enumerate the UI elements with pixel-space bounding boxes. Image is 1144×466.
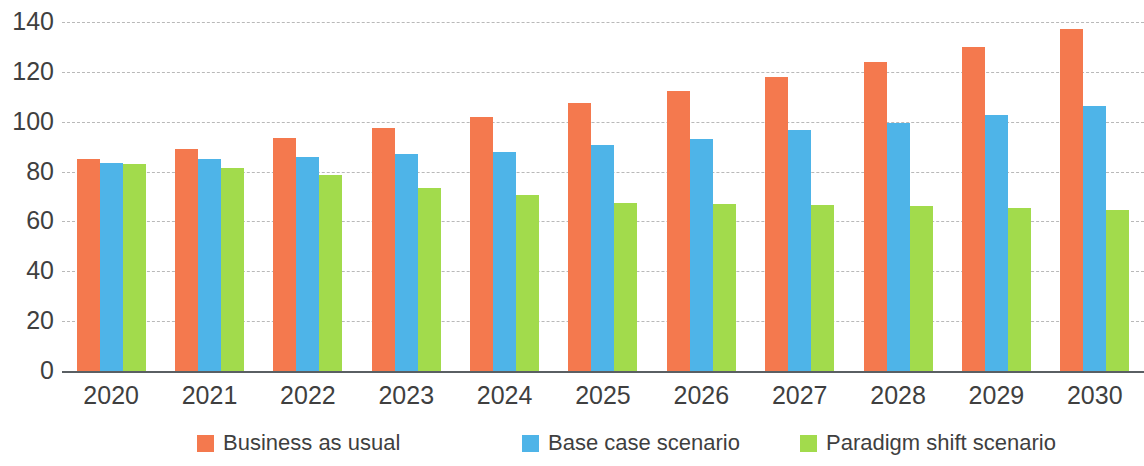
legend-swatch-icon [522, 435, 539, 452]
bar-group [554, 0, 652, 371]
legend-item[interactable]: Base case scenario [522, 428, 740, 458]
bar[interactable] [887, 123, 910, 371]
bar[interactable] [77, 159, 100, 371]
y-axis-tick-label: 20 [0, 308, 54, 333]
bar-group [1046, 0, 1144, 371]
x-axis-tick-label: 2024 [455, 378, 553, 412]
y-axis-tick-label: 0 [0, 358, 54, 383]
bar[interactable] [100, 163, 123, 371]
y-axis-tick-label: 80 [0, 159, 54, 184]
bar[interactable] [690, 139, 713, 371]
bar[interactable] [198, 159, 221, 371]
bar[interactable] [667, 91, 690, 371]
bar[interactable] [395, 154, 418, 371]
bar-group [259, 0, 357, 371]
bar[interactable] [962, 47, 985, 371]
x-axis-tick-label: 2027 [751, 378, 849, 412]
legend-item[interactable]: Business as usual [197, 428, 400, 458]
bar[interactable] [614, 203, 637, 371]
x-axis-tick-label: 2025 [554, 378, 652, 412]
bar[interactable] [372, 128, 395, 371]
bar-group [751, 0, 849, 371]
bar[interactable] [910, 206, 933, 371]
legend-label: Paradigm shift scenario [826, 432, 1056, 454]
legend-label: Base case scenario [548, 432, 740, 454]
bar-group [62, 0, 160, 371]
x-axis-tick-label: 2026 [652, 378, 750, 412]
x-axis-tick-label: 2021 [160, 378, 258, 412]
bar[interactable] [516, 195, 539, 371]
legend-swatch-icon [197, 435, 214, 452]
x-axis-tick-label: 2030 [1046, 378, 1144, 412]
chart-legend: Business as usualBase case scenarioParad… [0, 428, 1144, 462]
x-axis-tick-label: 2028 [849, 378, 947, 412]
y-axis-tick-label: 120 [0, 59, 54, 84]
x-axis-tick-label: 2020 [62, 378, 160, 412]
legend-item[interactable]: Paradigm shift scenario [800, 428, 1056, 458]
bar[interactable] [319, 175, 342, 371]
bar[interactable] [713, 204, 736, 371]
bar[interactable] [175, 149, 198, 371]
bar[interactable] [273, 138, 296, 371]
bar[interactable] [765, 77, 788, 371]
bar[interactable] [221, 168, 244, 371]
x-axis-tick-label: 2022 [259, 378, 357, 412]
bar[interactable] [418, 188, 441, 371]
y-axis-tick-label: 60 [0, 208, 54, 233]
bar[interactable] [1106, 210, 1129, 371]
bar[interactable] [296, 157, 319, 371]
legend-label: Business as usual [223, 432, 400, 454]
bar[interactable] [470, 117, 493, 371]
bar-group [455, 0, 553, 371]
x-axis: 2020202120222023202420252026202720282029… [62, 378, 1144, 412]
bar-group [947, 0, 1045, 371]
bar[interactable] [811, 205, 834, 371]
bar[interactable] [1008, 208, 1031, 371]
legend-swatch-icon [800, 435, 817, 452]
bar[interactable] [788, 130, 811, 371]
bar-groups [62, 0, 1144, 371]
bar[interactable] [568, 103, 591, 371]
bar-group [160, 0, 258, 371]
bar-group [652, 0, 750, 371]
bar-chart: 020406080100120140 202020212022202320242… [0, 0, 1144, 466]
bar-group [849, 0, 947, 371]
x-axis-line [62, 371, 1144, 373]
x-axis-tick-label: 2029 [947, 378, 1045, 412]
bar[interactable] [864, 62, 887, 371]
bar[interactable] [985, 115, 1008, 371]
bar[interactable] [123, 164, 146, 371]
y-axis-tick-label: 40 [0, 258, 54, 283]
bar[interactable] [493, 152, 516, 371]
bar[interactable] [1060, 29, 1083, 371]
x-axis-tick-label: 2023 [357, 378, 455, 412]
y-axis-tick-label: 100 [0, 109, 54, 134]
bar[interactable] [591, 145, 614, 371]
bar-group [357, 0, 455, 371]
bar[interactable] [1083, 106, 1106, 371]
y-axis-tick-label: 140 [0, 9, 54, 34]
